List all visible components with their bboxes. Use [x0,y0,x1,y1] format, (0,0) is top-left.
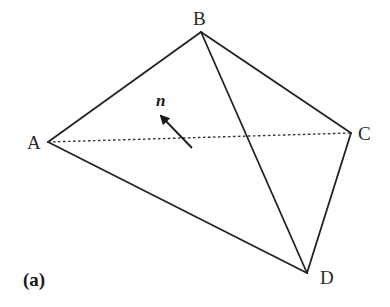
tetrahedron-figure: B A C D n (a) [0,0,390,307]
edge-ab [48,32,201,142]
tetrahedron-diagram [0,0,390,307]
normal-vector-arrow [161,116,192,148]
vertex-label-c: C [358,124,371,143]
vertex-label-d: D [320,268,334,287]
edge-cd [307,133,351,273]
figure-caption: (a) [23,270,45,289]
edge-ad [48,142,307,273]
normal-vector-label: n [156,92,165,109]
vertex-label-a: A [27,133,41,152]
edge-ac-hidden [48,133,351,142]
vertex-label-b: B [193,9,206,28]
